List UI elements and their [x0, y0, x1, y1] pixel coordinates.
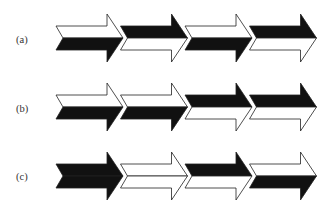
arrow-bottom-half: [185, 176, 252, 200]
arrow-bottom-half: [185, 38, 252, 62]
arrow-segment: [185, 83, 252, 131]
arrow-segment: [121, 152, 188, 200]
arrow-segment: [121, 83, 188, 131]
arrow-top-half: [250, 83, 317, 107]
arrow-bottom-half: [121, 107, 188, 131]
arrow-bottom-half: [56, 38, 123, 62]
arrow-top-half: [56, 14, 123, 38]
arrow-segment: [56, 14, 123, 62]
arrow-row-b: [56, 83, 317, 131]
arrow-bottom-half: [56, 107, 123, 131]
arrow-bottom-half: [185, 107, 252, 131]
arrow-bottom-half: [56, 176, 123, 200]
arrow-top-half: [56, 83, 123, 107]
arrow-segment: [250, 152, 317, 200]
arrow-top-half: [185, 83, 252, 107]
arrow-top-half: [56, 152, 123, 176]
arrow-top-half: [185, 152, 252, 176]
arrow-bottom-half: [250, 176, 317, 200]
arrow-top-half: [121, 83, 188, 107]
arrow-bottom-half: [250, 38, 317, 62]
arrow-segment: [185, 14, 252, 62]
row-label-c: (c): [16, 171, 28, 183]
arrow-segment: [56, 83, 123, 131]
arrow-diagram: [0, 0, 335, 208]
row-label-a: (a): [16, 34, 28, 46]
arrow-top-half: [121, 14, 188, 38]
arrow-segment: [56, 152, 123, 200]
arrow-bottom-half: [121, 176, 188, 200]
arrow-segment: [250, 14, 317, 62]
arrow-top-half: [250, 14, 317, 38]
arrow-top-half: [185, 14, 252, 38]
arrow-bottom-half: [250, 107, 317, 131]
arrow-bottom-half: [121, 38, 188, 62]
arrow-top-half: [250, 152, 317, 176]
row-label-b: (b): [16, 103, 28, 115]
arrow-row-c: [56, 152, 317, 200]
arrow-segment: [185, 152, 252, 200]
arrow-segment: [121, 14, 188, 62]
arrow-segment: [250, 83, 317, 131]
arrow-top-half: [121, 152, 188, 176]
arrow-row-a: [56, 14, 317, 62]
